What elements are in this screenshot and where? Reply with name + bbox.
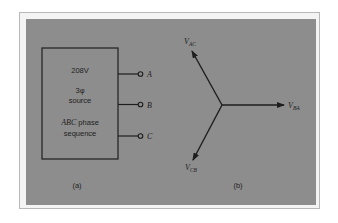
source-block: 208V 3φ source ABC phase sequence (42, 48, 118, 159)
terminal-c: C (118, 132, 153, 141)
phasor-vcb-arrow-icon (193, 105, 222, 160)
phasor-vac-label: VAC (184, 37, 196, 47)
phasor-diagram: VAC VBA VCB (184, 37, 300, 173)
terminal-label: A (146, 70, 152, 79)
terminal-b: B (118, 101, 152, 110)
voltage-label: 208V (71, 66, 89, 75)
sequence-label-line2: sequence (64, 129, 97, 138)
sequence-label-line1: ABC phase (60, 118, 99, 127)
phasor-vac-arrow-icon (192, 51, 222, 105)
source-label: source (69, 96, 92, 105)
terminal-a: A (118, 70, 152, 79)
phasor-vba-label: VBA (288, 101, 300, 111)
phasor-vcb-label: VCB (185, 163, 198, 173)
terminal-node-icon (138, 102, 143, 107)
phase-count-label: 3φ (75, 86, 84, 95)
terminal-label: B (147, 101, 152, 110)
terminal-node-icon (138, 134, 143, 139)
caption-a: (a) (72, 181, 82, 190)
caption-b: (b) (233, 181, 243, 190)
three-phase-diagram: 208V 3φ source ABC phase sequence A B C … (0, 0, 338, 223)
terminal-label: C (147, 132, 153, 141)
terminal-node-icon (138, 72, 143, 77)
